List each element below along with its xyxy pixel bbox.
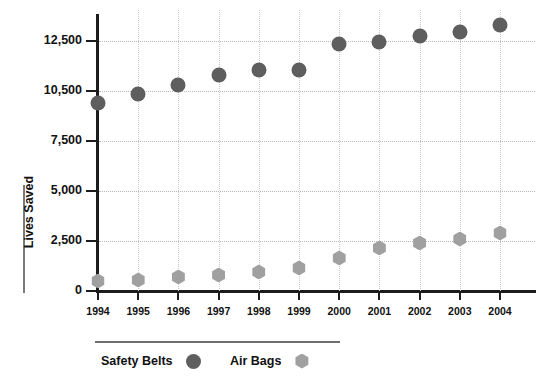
y-tick-label: 0 bbox=[20, 284, 82, 296]
data-point-safety-belts-1997 bbox=[211, 67, 226, 82]
y-tick-label: 5,000 bbox=[20, 184, 82, 196]
vertical-gridline bbox=[178, 10, 179, 291]
data-point-safety-belts-2000 bbox=[332, 36, 347, 51]
x-tick-mark bbox=[499, 293, 501, 300]
data-point-safety-belts-1998 bbox=[251, 62, 266, 77]
data-point-safety-belts-2002 bbox=[412, 29, 427, 44]
data-point-air-bags-1997 bbox=[211, 268, 226, 283]
horizontal-gridline bbox=[99, 91, 535, 92]
x-tick-label: 1995 bbox=[115, 305, 161, 317]
legend-items: Safety BeltsAir Bags bbox=[95, 350, 345, 376]
y-tick-mark bbox=[86, 140, 97, 142]
y-tick-label: 7,500 bbox=[20, 134, 82, 146]
y-axis-line bbox=[96, 14, 99, 293]
x-tick-label: 2001 bbox=[356, 305, 402, 317]
x-tick-mark bbox=[218, 293, 220, 300]
data-point-air-bags-2003 bbox=[452, 232, 467, 247]
data-point-air-bags-2001 bbox=[372, 241, 387, 256]
legend-label: Air Bags bbox=[230, 354, 281, 368]
data-point-safety-belts-1994 bbox=[91, 95, 106, 110]
y-axis-title: Lives Saved bbox=[22, 157, 36, 267]
x-tick-mark bbox=[378, 293, 380, 300]
x-tick-mark bbox=[97, 293, 99, 300]
horizontal-gridline bbox=[99, 191, 535, 192]
x-tick-label: 1998 bbox=[236, 305, 282, 317]
x-tick-label: 2004 bbox=[477, 305, 523, 317]
data-point-safety-belts-2001 bbox=[372, 35, 387, 50]
y-tick-mark bbox=[86, 90, 97, 92]
x-axis-line bbox=[96, 290, 536, 293]
lives-saved-scatter-chart: Lives Saved 02,5005,0007,50010,50012,500… bbox=[0, 0, 543, 382]
x-tick-label: 2000 bbox=[316, 305, 362, 317]
x-tick-label: 1999 bbox=[276, 305, 322, 317]
legend-divider bbox=[95, 341, 340, 343]
legend-entry-safety-belts[interactable]: Safety Belts bbox=[101, 350, 201, 372]
y-tick-label: 10,500 bbox=[20, 84, 82, 96]
horizontal-gridline bbox=[99, 41, 535, 42]
vertical-gridline bbox=[500, 10, 501, 291]
x-tick-mark bbox=[258, 293, 260, 300]
x-tick-mark bbox=[419, 293, 421, 300]
circle-marker-icon bbox=[186, 354, 201, 369]
data-point-air-bags-1994 bbox=[91, 274, 106, 289]
y-tick-mark bbox=[86, 190, 97, 192]
data-point-air-bags-1996 bbox=[171, 270, 186, 285]
x-tick-label: 1996 bbox=[155, 305, 201, 317]
data-point-safety-belts-2004 bbox=[493, 17, 508, 32]
vertical-gridline bbox=[259, 10, 260, 291]
hexagon-marker-icon bbox=[294, 354, 309, 369]
legend-entry-air-bags[interactable]: Air Bags bbox=[230, 350, 309, 372]
y-tick-mark bbox=[86, 290, 97, 292]
y-tick-mark bbox=[86, 240, 97, 242]
data-point-safety-belts-1995 bbox=[131, 86, 146, 101]
x-tick-mark bbox=[137, 293, 139, 300]
x-tick-label: 1994 bbox=[75, 305, 121, 317]
x-tick-mark bbox=[459, 293, 461, 300]
horizontal-gridline bbox=[99, 141, 535, 142]
data-point-safety-belts-1999 bbox=[292, 62, 307, 77]
data-point-air-bags-1995 bbox=[131, 273, 146, 288]
x-tick-label: 2002 bbox=[397, 305, 443, 317]
x-tick-mark bbox=[177, 293, 179, 300]
data-point-air-bags-1998 bbox=[251, 265, 266, 280]
x-tick-label: 2003 bbox=[437, 305, 483, 317]
x-tick-label: 1997 bbox=[196, 305, 242, 317]
data-point-air-bags-2002 bbox=[412, 236, 427, 251]
vertical-gridline bbox=[138, 10, 139, 291]
x-tick-mark bbox=[338, 293, 340, 300]
vertical-gridline bbox=[299, 10, 300, 291]
vertical-gridline bbox=[219, 10, 220, 291]
y-tick-label: 12,500 bbox=[20, 34, 82, 46]
data-point-air-bags-1999 bbox=[292, 261, 307, 276]
y-tick-mark bbox=[86, 40, 97, 42]
vertical-gridline bbox=[339, 10, 340, 291]
vertical-gridline bbox=[460, 10, 461, 291]
y-tick-label: 2,500 bbox=[20, 234, 82, 246]
horizontal-gridline bbox=[99, 241, 535, 242]
legend-label: Safety Belts bbox=[101, 354, 173, 368]
data-point-safety-belts-1996 bbox=[171, 77, 186, 92]
data-point-air-bags-2004 bbox=[493, 226, 508, 241]
data-point-safety-belts-2003 bbox=[452, 25, 467, 40]
data-point-air-bags-2000 bbox=[332, 251, 347, 266]
x-tick-mark bbox=[298, 293, 300, 300]
